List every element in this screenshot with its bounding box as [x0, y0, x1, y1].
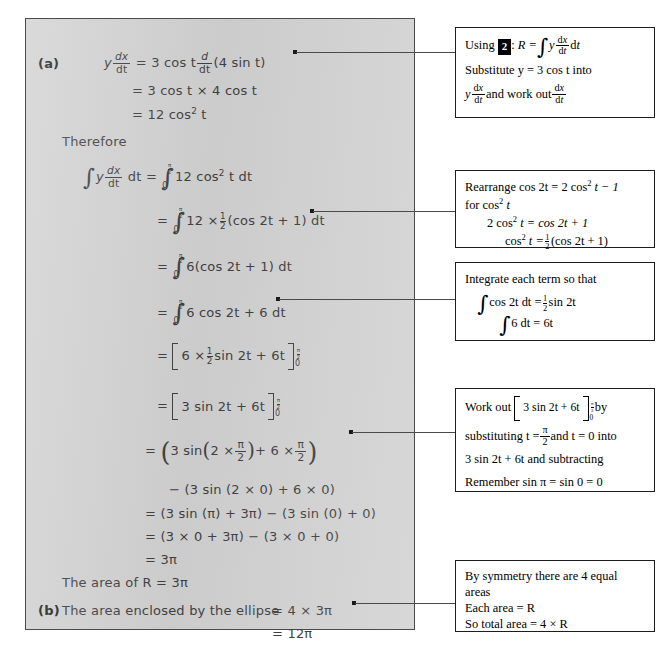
- dx-dt-fraction: dxdt: [113, 51, 130, 74]
- equation-b1-eq: =: [157, 348, 168, 363]
- equation-b1: = 6 ×12sin 2t + 6tπ20: [157, 343, 294, 370]
- definite-integral-symbol: ∫π20: [172, 258, 185, 276]
- evaluation-bracket: 3 sin 2t + 6tπ20: [514, 396, 588, 421]
- callout-4-row-3: 3 sin 2t + 6t and subtracting: [465, 450, 645, 469]
- equation-i4-rhs: 6 cos 2t + 6 dt: [186, 305, 286, 320]
- equation-i3-eq: =: [157, 259, 168, 274]
- callout-rearrange: Rearrange cos 2t = 2 cos2 t − 1 for cos2…: [455, 170, 655, 248]
- equation-b1-body: sin 2t + 6t: [214, 348, 285, 363]
- equation-i1-eq: dt =: [128, 169, 157, 184]
- close-paren: ): [307, 443, 317, 461]
- equation-i4: = ∫π206 cos 2t + 6 dt: [157, 304, 286, 322]
- callout-5-row-1: By symmetry there are 4 equal: [465, 568, 645, 584]
- dx-dt-fraction: dxdt: [105, 165, 122, 188]
- callout-2-row-2: for cos2 t: [465, 196, 645, 214]
- callout-symmetry: By symmetry there are 4 equal areas Each…: [455, 560, 655, 632]
- pi-over-two-fraction: π2: [235, 439, 246, 462]
- callout-4-work-out-text: Work out: [465, 400, 511, 414]
- equation-i3-rhs: 6(cos 2t + 1) dt: [186, 259, 292, 274]
- callout-1-y: y: [549, 38, 555, 52]
- callout-integrate: Integrate each term so that ∫cos 2t dt =…: [455, 262, 655, 341]
- equation-s1-plus: + 6 ×: [255, 443, 294, 458]
- callout-3-row-1: Integrate each term so that: [465, 270, 645, 289]
- callout-3-sin-result: sin 2t: [549, 295, 576, 309]
- pi-over-two-fraction: π2: [295, 439, 306, 462]
- definite-integral-symbol: ∫π20: [172, 212, 185, 230]
- part-b-label: (b): [38, 604, 60, 617]
- callout-4-row-4: Remember sin π = sin 0 = 0: [465, 473, 645, 492]
- callout-3-cos-integral: cos 2t dt =: [489, 295, 541, 309]
- evaluation-bracket: 3 sin 2t + 6tπ20: [172, 393, 274, 420]
- equation-b1-coeff: 6 ×: [181, 348, 205, 363]
- close-paren: ): [247, 444, 255, 459]
- callout-1-r-equals: R =: [518, 38, 537, 52]
- dx-dt-fraction: dxdt: [552, 83, 566, 105]
- callout-2-rearrange-text: Rearrange cos 2t = 2 cos: [465, 180, 587, 194]
- integral-symbol: ∫: [83, 170, 95, 186]
- callout-2-cos: cos: [505, 234, 522, 248]
- equation-s2: − (3 sin (2 × 0) + 6 × 0): [169, 483, 335, 496]
- callout-using-2: Using 2: R =∫ydxdtdt Substitute y = 3 co…: [455, 27, 655, 118]
- callout-4-row-2: substituting t =π2and t = 0 into: [465, 426, 645, 448]
- callout-1-dt: dt: [570, 38, 580, 52]
- callout-4-and-t-zero: and t = 0 into: [551, 429, 617, 443]
- equation-s3: = (3 sin (π) + 3π) − (3 sin (0) + 0): [145, 507, 376, 520]
- dx-dt-fraction: dxdt: [556, 35, 570, 57]
- callout-4-substituting: substituting t =: [465, 429, 539, 443]
- callout-3-row-2: ∫cos 2t dt =12sin 2t: [465, 293, 645, 312]
- equation-b2-body: 3 sin 2t + 6t: [181, 400, 265, 413]
- part-b-statement: The area enclosed by the ellipse: [62, 604, 279, 617]
- connector-line-3: [279, 299, 455, 300]
- equation-a3-main: = 12 cos: [132, 107, 191, 122]
- callout-5-row-2: areas: [465, 584, 645, 600]
- callout-2-row-3: 2 cos2 t = cos 2t + 1: [465, 214, 645, 232]
- one-half-fraction: 12: [207, 347, 213, 366]
- callout-3-row-3: ∫6 dt = 6t: [465, 314, 645, 333]
- equation-a2: = 3 cos t × 4 cos t: [132, 84, 257, 97]
- equation-b2-eq: =: [157, 398, 168, 413]
- equation-i2: = ∫π2012 ×12(cos 2t + 1) dt: [157, 212, 325, 231]
- callout-4-row-1: Work out 3 sin 2t + 6tπ20 by: [465, 396, 645, 421]
- equation-i2-tail: (cos 2t + 1) dt: [227, 213, 324, 228]
- callout-2-t: t: [506, 198, 509, 212]
- one-half-fraction: 12: [543, 294, 547, 312]
- callout-2-for-cos: for cos: [465, 198, 499, 212]
- equation-a3-var: t: [197, 107, 207, 122]
- equation-i4-eq: =: [157, 305, 168, 320]
- equation-s1: = (3 sin(2 ×π2)+ 6 ×π2): [145, 440, 317, 463]
- callout-work-out: Work out 3 sin 2t + 6tπ20 by substitutin…: [455, 388, 655, 492]
- callout-4-by: by: [595, 400, 607, 414]
- equation-a1: ydxdt = 3 cos tddt(4 sin t): [104, 52, 266, 75]
- callout-2-row-4: cos2 t =12(cos 2t + 1): [465, 232, 645, 251]
- equation-i2-rhs: 12 ×: [186, 213, 218, 228]
- equation-i3: = ∫π206(cos 2t + 1) dt: [157, 258, 292, 276]
- one-half-fraction: 12: [220, 212, 226, 231]
- callout-4-expression: 3 sin 2t + 6t: [523, 399, 579, 417]
- equation-s1-sin: 3 sin: [171, 443, 203, 458]
- equation-s1-eq: =: [145, 443, 156, 458]
- connector-line-5: [355, 603, 455, 604]
- part-b-equation-1: = 4 × 3π: [272, 604, 332, 617]
- evaluation-bracket: 6 ×12sin 2t + 6tπ20: [172, 343, 294, 370]
- integral-symbol: ∫: [537, 39, 548, 54]
- callout-1-y2: y: [465, 87, 471, 101]
- connector-line-1: [296, 52, 455, 53]
- therefore-text: Therefore: [62, 135, 127, 148]
- callout-3-six-integral: 6 dt = 6t: [511, 316, 553, 330]
- callout-1-row-3: ydxdtand work outdxdt: [465, 84, 645, 106]
- connector-line-4: [352, 432, 455, 433]
- dx-dt-fraction: dxdt: [472, 83, 486, 105]
- callout-2-eq: t = cos 2t + 1: [520, 216, 588, 230]
- equation-i2-eq: =: [157, 213, 168, 228]
- callout-5-row-3: Each area = R: [465, 600, 645, 616]
- worked-solution-panel: (a) ydxdt = 3 cos tddt(4 sin t) = 3 cos …: [25, 18, 415, 630]
- callout-2-row-1: Rearrange cos 2t = 2 cos2 t − 1: [465, 178, 645, 196]
- equation-i1-rhs: 12 cos: [175, 169, 219, 184]
- equation-a1-tail: (4 sin t): [213, 55, 265, 70]
- one-half-fraction: 12: [545, 233, 549, 251]
- reference-badge-2: 2: [498, 39, 512, 55]
- callout-2-rhs: (cos 2t + 1): [551, 234, 608, 248]
- equation-a1-mid: = 3 cos t: [136, 55, 196, 70]
- equation-s5: = 3π: [145, 553, 177, 566]
- integral-symbol: ∫: [499, 317, 510, 332]
